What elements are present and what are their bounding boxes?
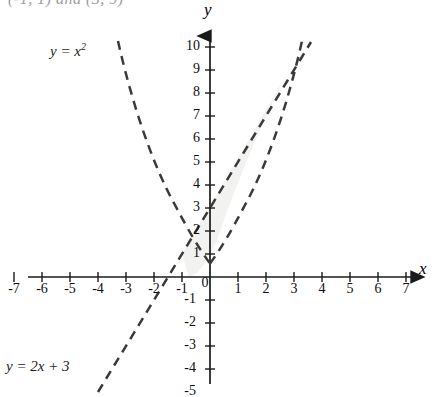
y-tick-label: -3 xyxy=(174,337,196,353)
y-tick-label: -1 xyxy=(174,291,196,307)
x-tick-label: 3 xyxy=(282,281,306,297)
x-tick-label: 7 xyxy=(394,281,418,297)
y-tick-label: 2 xyxy=(178,222,200,238)
x-tick-label: -3 xyxy=(114,281,138,297)
x-tick-label: 6 xyxy=(366,281,390,297)
x-axis-label: x xyxy=(419,259,427,279)
y-tick-label: 4 xyxy=(178,176,200,192)
x-tick-label: 2 xyxy=(254,281,278,297)
x-tick-label: 5 xyxy=(338,281,362,297)
y-tick-label: 6 xyxy=(178,130,200,146)
parabola-equation-exponent: 2 xyxy=(81,41,86,52)
y-tick-label: 9 xyxy=(178,61,200,77)
y-tick-label: 3 xyxy=(178,199,200,215)
curve-line xyxy=(98,42,311,392)
x-tick-label: -2 xyxy=(142,281,166,297)
y-tick-label: -4 xyxy=(174,360,196,376)
y-tick-label: 10 xyxy=(178,38,200,54)
x-tick-label: -6 xyxy=(30,281,54,297)
x-tick-label: -7 xyxy=(2,281,26,297)
x-tick-label-zero: 0 xyxy=(193,275,217,291)
y-tick-label: -2 xyxy=(174,314,196,330)
y-tick-label: 7 xyxy=(178,107,200,123)
parabola-equation-label: y = x2 xyxy=(50,41,86,60)
curve-parabola-right xyxy=(210,41,302,264)
y-tick-label: -5 xyxy=(174,383,196,397)
y-tick-label: 8 xyxy=(178,84,200,100)
y-tick-label: 5 xyxy=(178,153,200,169)
y-axis-label: y xyxy=(204,0,212,20)
x-tick-label: 1 xyxy=(226,281,250,297)
y-tick-label: 1 xyxy=(178,245,200,261)
line-equation-label: y = 2x + 3 xyxy=(6,358,70,375)
x-tick-label: -4 xyxy=(86,281,110,297)
x-tick-label: 4 xyxy=(310,281,334,297)
parabola-equation-base: y = x xyxy=(50,43,81,59)
x-tick-label: -5 xyxy=(58,281,82,297)
